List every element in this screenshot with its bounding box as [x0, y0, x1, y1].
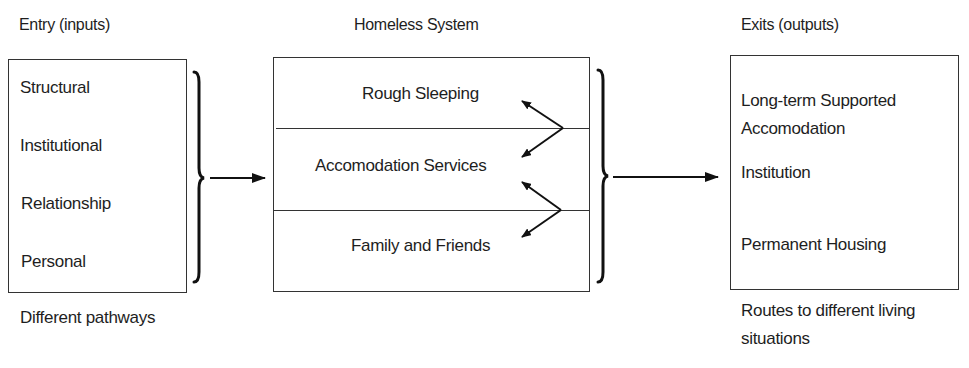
flow-accomodation-to-family-icon — [522, 182, 561, 237]
entry-brace-icon — [194, 72, 204, 282]
connectors — [0, 0, 969, 368]
system-brace-icon — [598, 70, 608, 282]
flow-rough-to-accomodation-icon — [522, 101, 563, 157]
